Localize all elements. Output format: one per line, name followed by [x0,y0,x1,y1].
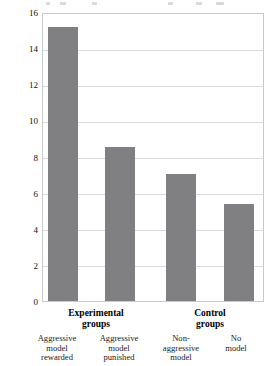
group-header-control-line2: groups [158,319,262,330]
y-tick-4: 4 [16,226,38,235]
top-edge-artifact [0,0,267,8]
y-tick-12: 12 [16,81,38,90]
cat1-line3: rewarded [26,353,88,363]
y-tick-10: 10 [16,117,38,126]
group-header-control-line1: Control [158,308,262,319]
y-tick-2: 2 [16,262,38,271]
y-tick-6: 6 [16,190,38,199]
category-label-no-model: No model [212,334,260,353]
category-label-non-aggressive-model: Non- aggressive model [152,334,210,363]
category-label-aggressive-model-punished: Aggressive model punished [88,334,150,363]
bar-aggressive-model-punished [105,147,135,301]
y-tick-8: 8 [16,154,38,163]
bar-aggressive-model-rewarded [48,27,78,301]
cat2-line3: punished [88,353,150,363]
y-tick-14: 14 [16,45,38,54]
category-label-aggressive-model-rewarded: Aggressive model rewarded [26,334,88,363]
y-tick-16: 16 [16,9,38,18]
group-header-experimental-line2: groups [36,319,156,330]
y-tick-0: 0 [16,298,38,307]
cat3-line3: model [152,353,210,363]
group-header-experimental-line1: Experimental [36,308,156,319]
group-header-experimental: Experimental groups [36,308,156,329]
plot-area [42,13,264,302]
cat4-line2: model [212,344,260,354]
chart-page: Mean imitative aggression scores for chi… [0,0,267,366]
bar-non-aggressive-model [166,174,196,301]
bar-no-model [224,204,254,301]
group-header-control: Control groups [158,308,262,329]
